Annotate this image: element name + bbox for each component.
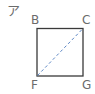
- square-diagram: [0, 0, 95, 94]
- diagonal-fc: [38, 29, 83, 76]
